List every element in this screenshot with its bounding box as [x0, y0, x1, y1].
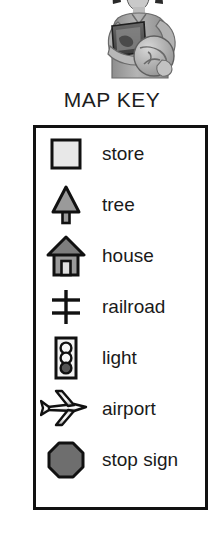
student-holding-book-and-globe-icon	[88, 0, 193, 90]
legend-label-house: house	[96, 245, 154, 267]
house-icon	[36, 230, 96, 281]
legend-label-tree: tree	[96, 194, 135, 216]
map-key-illustration	[0, 0, 224, 88]
legend-item-stop-sign: stop sign	[36, 434, 205, 485]
legend-item-store: store	[36, 128, 205, 179]
legend-item-railroad: railroad	[36, 281, 205, 332]
legend-list: store tree house	[36, 128, 205, 507]
tree-icon	[36, 179, 96, 230]
legend-label-stop-sign: stop sign	[96, 449, 178, 471]
store-square-icon	[36, 128, 96, 179]
legend-item-house: house	[36, 230, 205, 281]
legend-item-tree: tree	[36, 179, 205, 230]
airplane-icon	[36, 383, 96, 434]
legend-label-airport: airport	[96, 398, 156, 420]
railroad-crossing-icon	[36, 281, 96, 332]
legend-item-airport: airport	[36, 383, 205, 434]
legend-item-light: light	[36, 332, 205, 383]
legend-label-store: store	[96, 143, 144, 165]
map-key-legend-box: store tree house	[33, 125, 208, 510]
traffic-light-icon	[36, 332, 96, 383]
stop-sign-octagon-icon	[36, 434, 96, 485]
legend-label-railroad: railroad	[96, 296, 165, 318]
legend-label-light: light	[96, 347, 137, 369]
page-title: MAP KEY	[0, 88, 224, 112]
